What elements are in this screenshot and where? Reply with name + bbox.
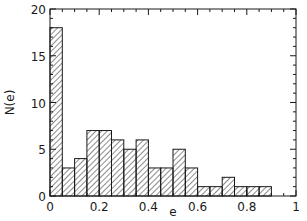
histogram-bar — [75, 159, 87, 196]
y-tick-label: 15 — [31, 50, 46, 64]
histogram-bar — [198, 187, 210, 196]
histogram-bar — [62, 168, 74, 196]
histogram-bar — [112, 140, 124, 196]
histogram-bar — [87, 131, 99, 196]
x-tick-label: 0.6 — [188, 200, 207, 214]
y-tick-label: 20 — [31, 3, 46, 17]
histogram-bar — [247, 187, 259, 196]
histogram-bar — [222, 177, 234, 196]
histogram-bar — [185, 168, 197, 196]
histogram-bar — [235, 187, 247, 196]
y-tick-label: 10 — [31, 97, 46, 111]
y-axis-label: N(e) — [3, 90, 17, 116]
y-tick-label: 5 — [38, 143, 46, 157]
x-tick-label: 0 — [46, 200, 54, 214]
x-tick-label: 0.4 — [139, 200, 158, 214]
x-axis-label: e — [169, 205, 176, 219]
histogram-bars — [50, 28, 271, 196]
histogram-bar — [173, 149, 185, 196]
x-tick-label: 0.8 — [237, 200, 256, 214]
histogram-bar — [99, 131, 111, 196]
histogram-bar — [161, 168, 173, 196]
histogram-bar — [259, 187, 271, 196]
x-tick-label: 0.2 — [90, 200, 109, 214]
histogram-bar — [210, 187, 222, 196]
histogram-bar — [148, 168, 160, 196]
y-tick-label: 0 — [38, 190, 46, 204]
histogram-bar — [124, 149, 136, 196]
histogram-bar — [136, 140, 148, 196]
histogram-chart: 00.20.40.60.81 05101520 e N(e) — [0, 0, 307, 221]
y-tick-labels: 05101520 — [31, 3, 46, 204]
x-tick-label: 1 — [292, 200, 300, 214]
